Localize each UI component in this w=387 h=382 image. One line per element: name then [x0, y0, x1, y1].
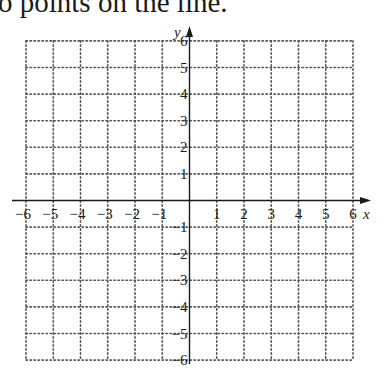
x-tick-label: −4	[70, 206, 86, 222]
x-axis-label: x	[362, 206, 370, 222]
x-tick-label: 3	[268, 206, 276, 222]
y-tick-label: −2	[172, 246, 188, 262]
x-tick-label: 5	[322, 206, 330, 222]
y-tick-label: 6	[180, 33, 188, 49]
x-axis-arrow-icon	[360, 197, 371, 204]
y-tick-label: −3	[172, 272, 188, 288]
x-tick-label: −6	[15, 206, 31, 222]
y-tick-label: −4	[172, 299, 188, 315]
y-tick-label: −6	[172, 352, 188, 368]
x-tick-label: −1	[151, 206, 167, 222]
x-tick-label: 1	[213, 206, 221, 222]
x-tick-label: −2	[124, 206, 140, 222]
x-tick-label: 4	[295, 206, 303, 222]
x-tick-label: −3	[97, 206, 113, 222]
x-tick-label: 6	[349, 206, 357, 222]
x-tick-label: 2	[240, 206, 248, 222]
y-tick-label: 3	[180, 113, 188, 129]
y-tick-label: −5	[172, 326, 188, 342]
y-tick-label: 4	[180, 86, 188, 102]
coordinate-grid: xy−6−5−4−3−2−1123456654321−1−2−3−4−5−6	[0, 0, 387, 382]
y-tick-label: −1	[172, 219, 188, 235]
x-tick-label: −5	[42, 206, 58, 222]
y-tick-label: 5	[180, 60, 188, 76]
y-tick-label: 1	[180, 166, 188, 182]
y-tick-label: 2	[180, 139, 188, 155]
